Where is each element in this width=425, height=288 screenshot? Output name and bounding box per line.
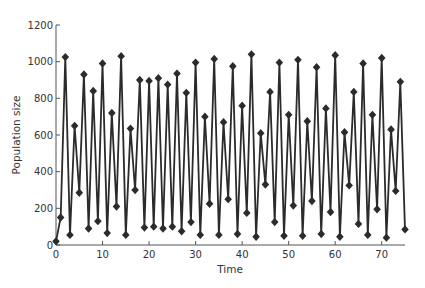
diamond-marker [280, 232, 288, 240]
diamond-marker [178, 227, 186, 235]
diamond-marker [103, 229, 111, 237]
diamond-marker [308, 197, 316, 205]
diamond-marker [350, 88, 358, 96]
diamond-marker [290, 201, 298, 209]
diamond-marker [71, 122, 79, 130]
diamond-marker [169, 222, 177, 230]
diamond-marker [322, 104, 330, 112]
diamond-marker [62, 53, 70, 61]
diamond-marker [210, 55, 218, 63]
diamond-marker [243, 209, 251, 217]
diamond-marker [369, 111, 377, 119]
diamond-marker [99, 59, 107, 67]
diamond-marker [85, 224, 93, 232]
diamond-marker [108, 109, 116, 117]
x-axis-title: Time [216, 263, 243, 275]
x-tick-label: 0 [53, 249, 59, 260]
diamond-marker [127, 124, 135, 132]
diamond-marker [52, 237, 60, 245]
x-tick-label: 30 [189, 249, 202, 260]
y-axis: 020040060080010001200 [28, 20, 60, 251]
x-tick-label: 60 [329, 249, 342, 260]
x-tick-label: 10 [96, 249, 109, 260]
diamond-marker [117, 52, 125, 60]
diamond-marker [271, 218, 279, 226]
diamond-marker [201, 112, 209, 120]
diamond-marker [355, 220, 363, 228]
diamond-marker [304, 117, 312, 125]
diamond-marker [89, 87, 97, 95]
diamond-marker [359, 59, 367, 67]
population-chart: 020040060080010001200 010203040506070 Ti… [0, 0, 425, 288]
diamond-marker [285, 111, 293, 119]
diamond-marker [150, 222, 158, 230]
diamond-marker [122, 231, 130, 239]
diamond-marker [276, 58, 284, 66]
diamond-marker [145, 77, 153, 85]
y-tick-label: 600 [34, 130, 53, 141]
diamond-marker [136, 76, 144, 84]
diamond-marker [224, 195, 232, 203]
diamond-marker [173, 69, 181, 77]
diamond-marker [373, 205, 381, 213]
diamond-marker [131, 186, 139, 194]
diamond-marker [262, 180, 270, 188]
diamond-marker [257, 129, 265, 137]
diamond-marker [164, 80, 172, 88]
diamond-marker [252, 233, 260, 241]
y-tick-label: 400 [34, 166, 53, 177]
diamond-marker [248, 50, 256, 58]
diamond-marker [159, 224, 167, 232]
diamond-marker [75, 189, 83, 197]
diamond-marker [192, 58, 200, 66]
diamond-marker [383, 233, 391, 241]
diamond-marker [336, 233, 344, 241]
diamond-marker [238, 101, 246, 109]
diamond-marker [331, 51, 339, 59]
diamond-marker [266, 88, 274, 96]
y-tick-label: 800 [34, 93, 53, 104]
x-tick-label: 50 [282, 249, 295, 260]
y-tick-label: 200 [34, 203, 53, 214]
x-tick-label: 70 [375, 249, 388, 260]
diamond-marker [229, 62, 237, 70]
x-axis: 010203040506070 [53, 241, 405, 260]
diamond-marker [397, 78, 405, 86]
diamond-marker [113, 202, 121, 210]
diamond-marker [187, 218, 195, 226]
diamond-marker [327, 208, 335, 216]
diamond-marker [206, 200, 214, 208]
diamond-marker [80, 70, 88, 78]
diamond-marker [378, 54, 386, 62]
diamond-marker [294, 56, 302, 64]
population-line [56, 54, 405, 241]
diamond-marker [234, 230, 242, 238]
y-axis-title: Population size [10, 96, 22, 175]
diamond-marker [299, 232, 307, 240]
y-tick-label: 1000 [28, 56, 53, 67]
plot-area [52, 50, 409, 245]
diamond-marker [94, 217, 102, 225]
diamond-marker [183, 89, 191, 97]
x-tick-label: 40 [236, 249, 249, 260]
diamond-marker [387, 125, 395, 133]
diamond-marker [341, 128, 349, 136]
diamond-marker [196, 231, 204, 239]
diamond-marker [317, 230, 325, 238]
diamond-marker [141, 223, 149, 231]
diamond-marker [66, 231, 74, 239]
diamond-marker [345, 181, 353, 189]
x-tick-label: 20 [143, 249, 156, 260]
diamond-marker [392, 187, 400, 195]
diamond-marker [313, 63, 321, 71]
diamond-marker [220, 118, 228, 126]
diamond-marker [215, 231, 223, 239]
y-tick-label: 1200 [28, 20, 53, 31]
diamond-marker [155, 74, 163, 82]
diamond-marker [364, 231, 372, 239]
diamond-marker [57, 213, 65, 221]
diamond-marker [401, 225, 409, 233]
